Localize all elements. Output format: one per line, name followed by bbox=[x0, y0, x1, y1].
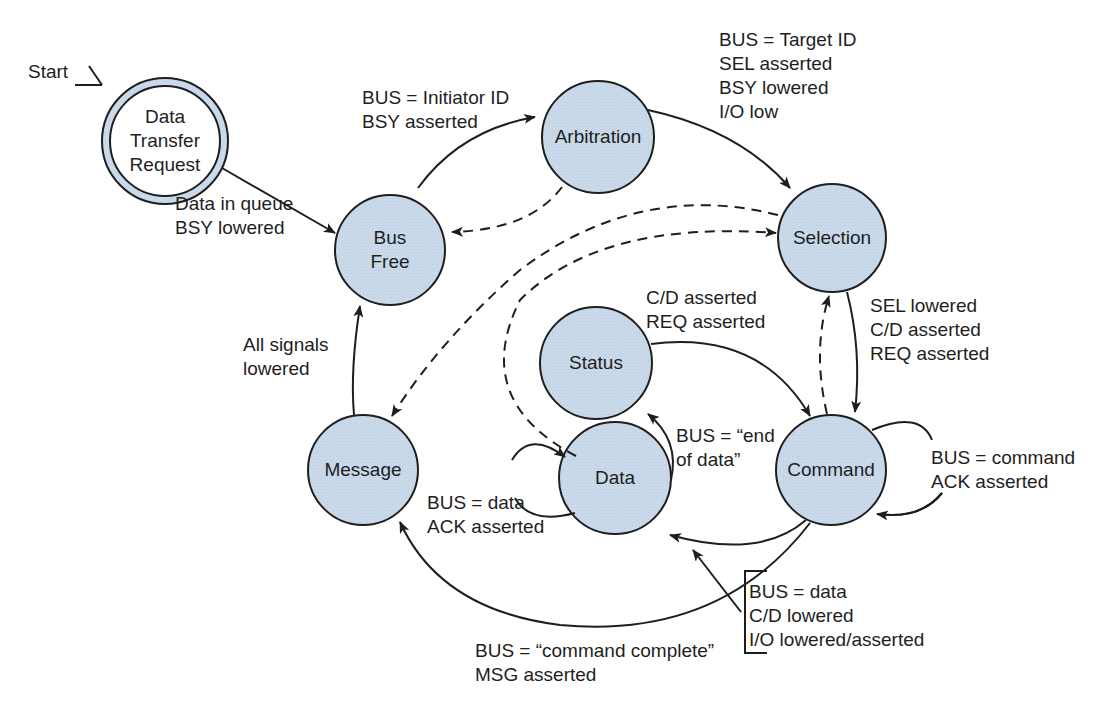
annotation-pointer bbox=[693, 550, 741, 612]
node-label-command: Command bbox=[787, 458, 875, 482]
edge-command-to-data bbox=[670, 520, 806, 545]
edge-label-status-to-command: C/D asserted REQ asserted bbox=[646, 286, 765, 334]
edge-label-command-complete: BUS = “command complete” MSG asserted bbox=[475, 639, 714, 687]
edge-label-target-id: BUS = Target ID SEL asserted BSY lowered… bbox=[719, 28, 856, 124]
node-label-message: Message bbox=[324, 458, 401, 482]
edge-status-to-command bbox=[651, 342, 810, 416]
node-label-data: Data bbox=[595, 466, 635, 490]
edge-label-all-signals-lowered: All signals lowered bbox=[243, 333, 329, 381]
edge-label-data-in-queue: Data in queue BSY lowered bbox=[175, 192, 293, 240]
node-label-data-transfer-request: Data Transfer Request bbox=[130, 105, 201, 177]
edge-command-to-selection-dashed bbox=[820, 296, 829, 414]
edge-label-bus-command: BUS = command ACK asserted bbox=[931, 446, 1075, 494]
edge-label-bus-data-cd: BUS = data C/D lowered I/O lowered/asser… bbox=[749, 580, 924, 652]
edge-data-self-loop bbox=[512, 444, 565, 460]
start-label: Start bbox=[28, 60, 68, 84]
edge-label-sel-lowered: SEL lowered C/D asserted REQ asserted bbox=[870, 294, 989, 366]
edge-label-initiator-id: BUS = Initiator ID BSY asserted bbox=[362, 86, 509, 134]
node-label-status: Status bbox=[569, 351, 623, 375]
edge-message-to-busfree bbox=[353, 306, 360, 415]
start-arrow bbox=[75, 66, 102, 85]
node-label-bus-free: Bus Free bbox=[370, 226, 409, 274]
node-label-arbitration: Arbitration bbox=[555, 125, 642, 149]
edge-selection-to-command bbox=[847, 292, 857, 412]
node-label-selection: Selection bbox=[793, 226, 871, 250]
state-diagram: Data Transfer Request Bus Free Arbitrati… bbox=[0, 0, 1111, 709]
edge-label-bus-data-ack: BUS = data ACK asserted bbox=[427, 491, 544, 539]
edge-arbitration-to-busfree-dashed bbox=[452, 187, 562, 232]
edge-label-end-of-data: BUS = “end of data” bbox=[676, 424, 775, 472]
